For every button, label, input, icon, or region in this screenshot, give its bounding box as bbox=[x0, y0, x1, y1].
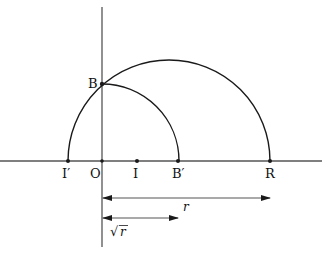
large-semicircle-arc bbox=[68, 60, 270, 161]
label-I: I bbox=[133, 166, 138, 181]
point-O bbox=[100, 159, 104, 163]
label-I-prime: I′ bbox=[62, 166, 70, 181]
construction-figure: B I′ O I B′ R r √ r bbox=[0, 0, 333, 258]
label-sqrt-r: √ r bbox=[110, 224, 128, 239]
small-arc bbox=[102, 84, 179, 161]
label-O: O bbox=[90, 166, 101, 181]
label-r: r bbox=[183, 200, 190, 214]
point-R bbox=[268, 159, 272, 163]
point-I-prime bbox=[66, 159, 70, 163]
label-R: R bbox=[265, 166, 276, 181]
point-B bbox=[100, 82, 104, 86]
point-I bbox=[135, 159, 139, 163]
label-B: B bbox=[88, 76, 98, 91]
point-B-prime bbox=[176, 159, 180, 163]
sqrt-symbol: √ bbox=[110, 224, 119, 239]
label-B-prime: B′ bbox=[172, 166, 185, 181]
diagram-canvas: B I′ O I B′ R r √ r bbox=[0, 0, 333, 258]
sqrt-radicand: r bbox=[120, 225, 127, 239]
